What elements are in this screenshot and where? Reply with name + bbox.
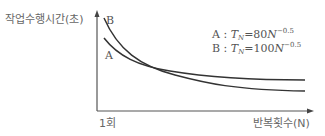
- legend-b-prefix: B :: [212, 42, 231, 55]
- svg-text:B : TN=100N−0.5: B : TN=100N−0.5: [212, 41, 301, 56]
- legend-a-coef: =80: [244, 28, 267, 41]
- legend-b: B : TN=100N−0.5: [212, 41, 301, 56]
- x-axis-label: 반복횟수(N): [253, 117, 310, 130]
- x-axis-arrow-icon: [307, 109, 314, 114]
- legend-a-exp: −0.5: [277, 27, 294, 35]
- svg-text:A : TN=80N−0.5: A : TN=80N−0.5: [211, 27, 294, 42]
- curve-a-label: A: [104, 49, 114, 62]
- origin-tick-label: 1회: [99, 117, 116, 130]
- legend-b-exp: −0.5: [284, 41, 301, 49]
- learning-curve-diagram: 작업수행시간(초) B A A : TN=80N−0.5 B : TN=100N…: [0, 0, 325, 136]
- y-axis-label: 작업수행시간(초): [5, 13, 84, 26]
- legend-a-prefix: A :: [211, 28, 231, 41]
- legend-b-coef: =100: [244, 42, 274, 55]
- curve-b-label: B: [106, 14, 114, 27]
- y-axis-arrow-icon: [95, 10, 100, 17]
- legend-a: A : TN=80N−0.5: [211, 27, 294, 42]
